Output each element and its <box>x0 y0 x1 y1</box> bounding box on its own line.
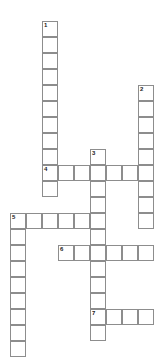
grid-cell[interactable] <box>90 165 106 181</box>
grid-cell[interactable] <box>10 261 26 277</box>
grid-cell[interactable] <box>138 245 154 261</box>
grid-cell[interactable] <box>138 213 154 229</box>
clue-number: 6 <box>60 246 63 253</box>
grid-cell[interactable] <box>58 213 74 229</box>
grid-cell[interactable] <box>10 309 26 325</box>
grid-cell[interactable]: 2 <box>138 85 154 101</box>
clue-number: 3 <box>92 150 95 157</box>
grid-cell[interactable] <box>138 197 154 213</box>
grid-cell[interactable] <box>74 213 90 229</box>
clue-number: 7 <box>92 310 95 317</box>
grid-cell[interactable]: 3 <box>90 149 106 165</box>
grid-cell[interactable] <box>10 293 26 309</box>
clue-number: 2 <box>140 86 143 93</box>
clue-number: 4 <box>44 166 47 173</box>
grid-cell[interactable] <box>138 165 154 181</box>
grid-cell[interactable] <box>10 229 26 245</box>
grid-cell[interactable] <box>42 133 58 149</box>
grid-cell[interactable] <box>122 245 138 261</box>
grid-cell[interactable] <box>90 229 106 245</box>
grid-cell[interactable] <box>42 85 58 101</box>
grid-cell[interactable] <box>42 37 58 53</box>
grid-cell[interactable] <box>26 213 42 229</box>
grid-cell[interactable] <box>58 165 74 181</box>
grid-cell[interactable] <box>138 117 154 133</box>
grid-cell[interactable] <box>10 341 26 357</box>
grid-cell[interactable] <box>10 277 26 293</box>
grid-cell[interactable] <box>90 293 106 309</box>
grid-cell[interactable] <box>90 213 106 229</box>
grid-cell[interactable] <box>90 245 106 261</box>
grid-cell[interactable]: 1 <box>42 21 58 37</box>
grid-cell[interactable] <box>42 149 58 165</box>
grid-cell[interactable] <box>106 165 122 181</box>
grid-cell[interactable] <box>90 277 106 293</box>
grid-cell[interactable]: 6 <box>58 245 74 261</box>
grid-cell[interactable] <box>90 197 106 213</box>
grid-cell[interactable] <box>138 133 154 149</box>
grid-cell[interactable] <box>90 181 106 197</box>
grid-cell[interactable] <box>42 69 58 85</box>
grid-cell[interactable] <box>138 181 154 197</box>
grid-cell[interactable]: 5 <box>10 213 26 229</box>
grid-cell[interactable] <box>74 165 90 181</box>
grid-cell[interactable] <box>122 165 138 181</box>
grid-cell[interactable]: 4 <box>42 165 58 181</box>
grid-cell[interactable] <box>74 245 90 261</box>
grid-cell[interactable] <box>138 309 154 325</box>
grid-cell[interactable] <box>138 101 154 117</box>
grid-cell[interactable] <box>42 213 58 229</box>
clue-number: 5 <box>12 214 15 221</box>
grid-cell[interactable] <box>122 309 138 325</box>
grid-cell[interactable] <box>106 245 122 261</box>
grid-cell[interactable]: 7 <box>90 309 106 325</box>
grid-cell[interactable] <box>106 309 122 325</box>
grid-cell[interactable] <box>138 149 154 165</box>
grid-cell[interactable] <box>90 325 106 341</box>
grid-cell[interactable] <box>10 325 26 341</box>
grid-cell[interactable] <box>42 101 58 117</box>
grid-cell[interactable] <box>90 261 106 277</box>
grid-cell[interactable] <box>42 53 58 69</box>
clue-number: 1 <box>44 22 47 29</box>
grid-cell[interactable] <box>10 245 26 261</box>
grid-cell[interactable] <box>42 117 58 133</box>
grid-cell[interactable] <box>42 181 58 197</box>
